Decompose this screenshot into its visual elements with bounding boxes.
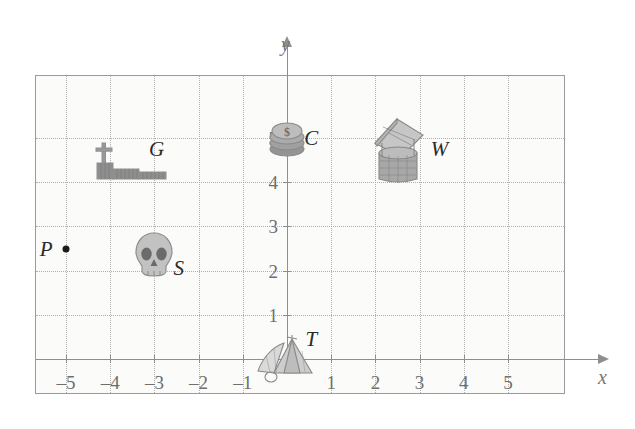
- y-axis-tick: [283, 315, 291, 316]
- x-axis-tick: [66, 355, 67, 363]
- svg-text:$: $: [284, 125, 290, 139]
- x-axis-tick: [508, 355, 509, 363]
- gridline-vertical: [66, 76, 67, 393]
- y-axis-line: [287, 44, 288, 359]
- well-icon: [367, 113, 429, 189]
- gridline-vertical: [110, 76, 111, 393]
- plotted-point-p[interactable]: [63, 245, 70, 252]
- y-axis-tick-label: 2: [269, 261, 279, 280]
- gridline-horizontal: [36, 315, 564, 316]
- x-axis-label: x: [598, 367, 607, 387]
- y-axis-tick: [283, 226, 291, 227]
- gridline-vertical: [331, 76, 332, 393]
- x-axis-tick: [243, 355, 244, 363]
- x-axis-tick-label: 1: [326, 373, 336, 392]
- x-axis-tick: [110, 355, 111, 363]
- y-axis-tick-label: 4: [269, 173, 279, 192]
- coordinate-plane: –5–4–3–2–11234512345 G: [35, 75, 565, 394]
- x-axis-tick-label: –2: [189, 373, 208, 392]
- x-axis-tick-label: 3: [415, 373, 425, 392]
- y-axis-tick: [283, 271, 291, 272]
- x-axis-tick-label: 2: [371, 373, 381, 392]
- x-axis-tick-label: –3: [145, 373, 164, 392]
- x-axis-tick-label: 5: [503, 373, 513, 392]
- x-axis-arrow-icon: [598, 354, 609, 364]
- x-axis-tick-label: 4: [459, 373, 469, 392]
- x-axis-tick: [331, 355, 332, 363]
- gridline-vertical: [464, 76, 465, 393]
- x-axis-tick: [375, 355, 376, 363]
- x-axis-tick: [464, 355, 465, 363]
- x-axis-tick: [154, 355, 155, 363]
- y-axis-label: y: [281, 34, 290, 54]
- y-axis-tick-label: 3: [269, 217, 279, 236]
- x-axis-tick-label: –4: [101, 373, 120, 392]
- point-label-g: G: [149, 139, 164, 160]
- x-axis-tick-label: –1: [233, 373, 252, 392]
- gridline-vertical: [508, 76, 509, 393]
- coins-icon: $: [264, 116, 310, 160]
- point-label-t: T: [305, 329, 317, 350]
- y-axis-tick-label: 1: [269, 305, 279, 324]
- point-label-w: W: [431, 139, 449, 160]
- x-axis-tick-label: –5: [57, 373, 76, 392]
- point-label-s: S: [173, 258, 184, 279]
- point-label-p: P: [40, 238, 53, 259]
- y-axis-tick: [283, 182, 291, 183]
- x-axis-tick: [199, 355, 200, 363]
- x-axis-tick: [420, 355, 421, 363]
- gridline-vertical: [199, 76, 200, 393]
- gridline-vertical: [243, 76, 244, 393]
- gridline-horizontal: [36, 271, 564, 272]
- point-label-c: C: [304, 128, 318, 149]
- skull-icon: [132, 231, 176, 283]
- gridline-horizontal: [36, 226, 564, 227]
